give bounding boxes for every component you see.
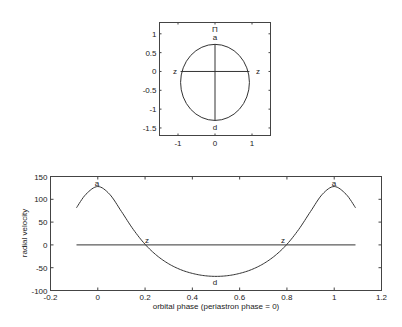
x-tick-label: 0.8: [281, 293, 293, 302]
x-tick-label: -1: [174, 139, 182, 148]
x-tick-label: 0.4: [187, 293, 199, 302]
annotation-d: d: [213, 278, 217, 287]
rv-plot-frame: [51, 177, 382, 291]
radial-velocity-plot: -0.200.20.40.60.811.2150100500-50-100 a …: [20, 173, 388, 312]
x-tick-label: 1.2: [376, 293, 388, 302]
y-tick-label: 150: [34, 173, 48, 182]
annotation-z-right: z: [256, 67, 260, 76]
y-tick-label: 100: [34, 195, 48, 204]
radial-velocity-curve: [77, 187, 356, 277]
y-tick-label: 50: [39, 218, 48, 227]
x-axis-title: orbital phase (periastron phase = 0): [153, 302, 280, 311]
annotation-a-left: a: [95, 179, 100, 188]
x-tick-label: 0.6: [234, 293, 246, 302]
x-tick-label: 1: [332, 293, 337, 302]
y-tick-label: 0.5: [145, 49, 157, 58]
x-tick-label: 0.2: [140, 293, 152, 302]
y-tick-label: -1.5: [143, 124, 157, 133]
annotation-z-first: z: [145, 236, 149, 245]
annotation-z-left: z: [173, 67, 177, 76]
annotation-d: d: [213, 123, 217, 132]
figure: -10110.50-0.5-1-1.5 Π a z z d -0.200.20.…: [0, 0, 402, 327]
y-tick-label: -0.5: [143, 86, 157, 95]
x-tick-label: 1: [250, 139, 255, 148]
orbit-plot: -10110.50-0.5-1-1.5 Π a z z d: [143, 23, 271, 148]
y-tick-label: -100: [31, 287, 48, 296]
annotation-a: a: [213, 33, 218, 42]
y-axis-title: radial velocity: [20, 209, 29, 257]
rv-plot-ticks: -0.200.20.40.60.811.2150100500-50-100: [31, 173, 387, 302]
annotation-a-right: a: [332, 179, 337, 188]
annotation-z-second: z: [281, 236, 285, 245]
orbit-plot-ticks: -10110.50-0.5-1-1.5: [143, 23, 271, 148]
y-tick-label: 1: [152, 30, 157, 39]
y-tick-label: -50: [36, 264, 48, 273]
x-tick-label: 0: [213, 139, 218, 148]
y-tick-label: -1: [149, 105, 157, 114]
y-tick-label: 0: [43, 241, 48, 250]
x-tick-label: 0: [96, 293, 101, 302]
y-tick-label: 0: [152, 67, 157, 76]
